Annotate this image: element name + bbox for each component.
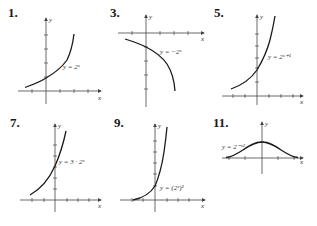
graph-9: 9. x y y = (2ˣ)² [114, 115, 205, 212]
y-axis-label: y [148, 13, 153, 21]
y-axis-label: y [259, 13, 264, 21]
y-axis-label: y [57, 122, 62, 130]
equation-label: y = 2ˣ [62, 63, 81, 71]
curve [25, 34, 74, 88]
y-axis-label: y [157, 122, 162, 130]
graph-grid: 1. x y y = 2ˣ 3. x y [0, 0, 317, 226]
equation-label: y = −2ˣ [159, 48, 183, 56]
graph-11: 11. x y y = 2⁻ˣ² [213, 115, 304, 174]
x-axis-label: x [200, 35, 205, 43]
graph-label: 7. [10, 115, 20, 130]
equation-label: y = 2⁻ˣ² [221, 143, 246, 151]
x-axis-label: x [299, 98, 304, 106]
ticks [132, 31, 188, 89]
x-axis-label: x [97, 94, 102, 102]
graph-label: 1. [8, 5, 18, 20]
y-axis-label: y [48, 16, 53, 24]
graph-label: 9. [114, 115, 124, 130]
graph-label: 11. [213, 115, 229, 130]
x-axis-label: x [97, 202, 102, 210]
equation-label: y = (2ˣ)² [159, 184, 184, 192]
equation-label: y = 2ˣ⁺¹ [267, 53, 291, 61]
graph-label: 3. [110, 5, 120, 20]
graph-7: 7. x y y = 3 · 2ˣ [10, 115, 102, 212]
y-axis-label: y [264, 120, 269, 128]
graph-label: 5. [214, 5, 224, 20]
curve [125, 39, 175, 91]
equation-label: y = 3 · 2ˣ [58, 158, 86, 166]
x-axis-label: x [200, 202, 205, 210]
x-axis-label: x [299, 158, 304, 166]
ticks [233, 34, 293, 98]
graph-5: 5. x y y = 2ˣ⁺¹ [214, 5, 304, 106]
graph-3: 3. x y y = −2ˣ [110, 5, 205, 107]
graph-1: 1. x y y = 2ˣ [8, 5, 102, 104]
